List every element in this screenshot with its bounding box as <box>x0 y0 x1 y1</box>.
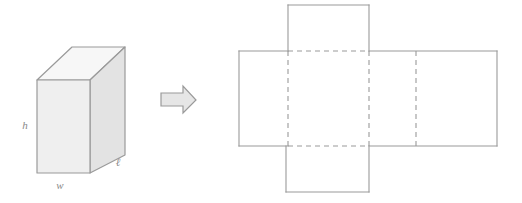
net-panel-right <box>369 51 497 146</box>
rectangular-prism: h w ℓ <box>22 47 125 191</box>
transform-arrow-group <box>161 86 196 113</box>
figure-container: h w ℓ <box>0 0 522 203</box>
label-length: ℓ <box>116 156 121 168</box>
box-net <box>239 5 497 192</box>
net-panel-center <box>288 51 369 146</box>
net-panel-top-flap <box>288 5 369 51</box>
label-height: h <box>22 119 28 131</box>
label-width: w <box>56 179 64 191</box>
prism-front-face <box>37 80 90 173</box>
net-panel-left <box>239 51 288 146</box>
figure-canvas: h w ℓ <box>0 0 522 203</box>
right-arrow-icon <box>161 86 196 113</box>
net-panel-bottom-flap <box>286 146 369 192</box>
